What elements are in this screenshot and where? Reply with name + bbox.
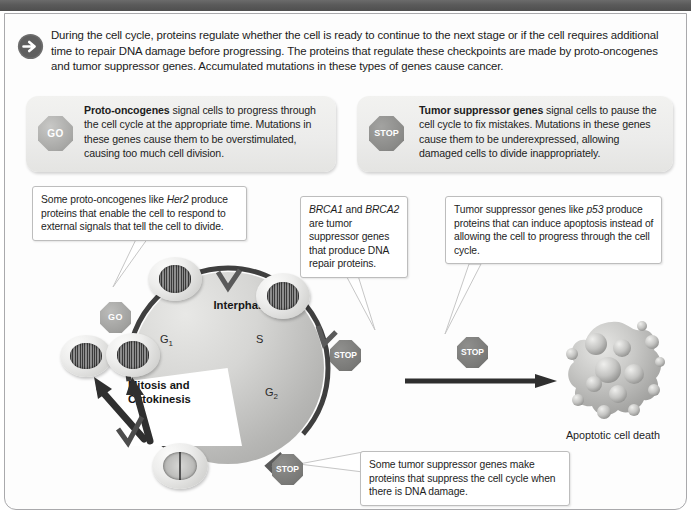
checkpoint-stop-mitosis-label: STOP — [272, 454, 303, 485]
brca1-gene-name: BRCA1 — [309, 204, 343, 215]
top-header-bar — [0, 0, 691, 11]
brca-callout-mid: and — [343, 204, 365, 215]
g2-phase-label: G2 — [265, 386, 278, 401]
tumor-suppressor-term: Tumor suppressor genes — [419, 104, 543, 116]
cell-g1-icon — [148, 257, 202, 301]
nucleus-chromatin-icon — [267, 282, 299, 311]
g2-subscript: 2 — [274, 392, 278, 401]
apoptosis-stop-label: STOP — [457, 337, 488, 368]
p53-callout-tail — [435, 264, 485, 340]
apoptosis-stop-sign-icon: STOP — [457, 337, 488, 368]
proto-oncogenes-term: Proto-oncogenes — [84, 104, 170, 116]
proto-oncogenes-definition-text: Proto-oncogenes signal cells to progress… — [84, 103, 327, 161]
g1-subscript: 1 — [169, 339, 173, 348]
her2-gene-name: Her2 — [167, 194, 189, 205]
tumor-suppressor-definition-text: Tumor suppressor genes signal cells to p… — [419, 103, 664, 161]
stop-sign-label: STOP — [369, 116, 404, 151]
proto-oncogenes-definition-box: GO Proto-oncogenes signal cells to progr… — [26, 96, 336, 172]
stop-octagon-sign-icon: STOP — [369, 116, 404, 151]
figure-frame: During the cell cycle, proteins regulate… — [4, 13, 687, 510]
go-octagon-sign-icon: GO — [38, 116, 73, 151]
p53-gene-name: p53 — [586, 204, 603, 215]
arrow-right-circle-icon — [17, 33, 44, 60]
p53-callout-pre: Tumor suppressor genes like — [454, 204, 586, 215]
brca2-gene-name: BRCA2 — [365, 204, 399, 215]
intro-paragraph: During the cell cycle, proteins regulate… — [51, 28, 679, 75]
checkpoint-stop-mitosis-sign-icon: STOP — [272, 454, 303, 485]
g2-letter: G — [265, 386, 274, 398]
spindle-apparatus-icon — [163, 452, 197, 481]
cell-cycle-diagram: Interphase G1 S G2 Mitosis and Cytokines… — [60, 257, 360, 502]
checkpoint-stop-g2-label: STOP — [330, 340, 361, 371]
checkpoint-go-sign-icon: GO — [100, 302, 131, 333]
go-sign-label: GO — [38, 116, 73, 151]
apoptotic-cell-icon — [556, 314, 668, 426]
her2-callout: Some proto-oncogenes like Her2 produce p… — [32, 186, 247, 241]
p53-callout: Tumor suppressor genes like p53 produce … — [445, 196, 662, 264]
her2-callout-pre: Some proto-oncogenes like — [41, 194, 167, 205]
cell-mitosis-spindle-icon — [152, 443, 208, 489]
checkpoint-stop-g2-sign-icon: STOP — [330, 340, 361, 371]
arrow-right-icon — [405, 374, 557, 388]
dna-damage-callout: Some tumor suppressor genes make protein… — [360, 451, 570, 506]
cell-s-icon — [256, 273, 310, 319]
apoptotic-cell-death-label: Apoptotic cell death — [545, 429, 681, 441]
g1-phase-label: G1 — [160, 333, 173, 348]
cytokinesis-arrows-icon — [70, 353, 180, 449]
checkpoint-go-label: GO — [100, 302, 131, 333]
g1-letter: G — [160, 333, 169, 345]
nucleus-chromatin-icon — [159, 265, 191, 292]
s-phase-label: S — [256, 333, 263, 345]
tumor-suppressor-definition-box: STOP Tumor suppressor genes signal cells… — [357, 96, 673, 172]
arrowhead-g1-s — [218, 270, 240, 288]
